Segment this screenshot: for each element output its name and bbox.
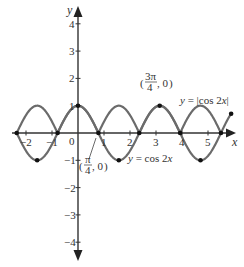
y-tick-label: −1 — [64, 154, 76, 166]
x-tick-label: −1 — [46, 136, 58, 148]
x-tick-label: 3 — [153, 136, 159, 148]
marked-point — [178, 131, 183, 136]
abs-cos-2x-curve — [17, 106, 231, 133]
y-axis-arrow-down-icon — [74, 250, 83, 261]
y-tick-label: −2 — [64, 182, 76, 194]
marked-point — [219, 131, 224, 136]
svg-text:(: ( — [140, 77, 144, 90]
point-label-3pi-over-4: ( 3π 4 , 0 ) — [140, 70, 173, 93]
y-tick-label: 4 — [69, 18, 75, 30]
marked-point — [157, 103, 162, 108]
y-axis-label: y — [66, 3, 73, 17]
marked-point — [35, 158, 40, 163]
svg-text:4: 4 — [85, 164, 91, 176]
y-tick-label: −3 — [64, 209, 76, 221]
abs-curve-label: y = |cos 2x| — [179, 94, 229, 106]
marked-point — [96, 131, 101, 136]
y-axis-arrow-up-icon — [74, 6, 83, 17]
y-tick-label: −4 — [64, 236, 76, 248]
axes — [12, 6, 236, 261]
marked-point — [117, 158, 122, 163]
function-graph: −2−1123454321−1−2−3−4 y x 0 y = |cos 2x|… — [0, 0, 244, 267]
svg-text:): ) — [104, 160, 108, 173]
svg-text:(: ( — [79, 160, 83, 173]
x-tick-label: 4 — [179, 136, 185, 148]
y-tick-label: 1 — [69, 100, 75, 112]
y-tick-label: 2 — [69, 72, 75, 84]
svg-text:, 0: , 0 — [92, 160, 104, 172]
marked-point — [137, 131, 142, 136]
marked-point — [76, 103, 81, 108]
y-tick-label: 3 — [69, 45, 75, 57]
marked-point — [55, 131, 60, 136]
cos-curve-label: y = cos 2x — [127, 152, 173, 164]
marked-point — [198, 158, 203, 163]
svg-text:, 0: , 0 — [157, 77, 169, 89]
x-tick-label: 1 — [101, 136, 107, 148]
x-tick-label: −2 — [20, 136, 32, 148]
x-tick-label: 2 — [127, 136, 133, 148]
x-axis-label: x — [231, 135, 238, 149]
svg-text:4: 4 — [147, 81, 153, 93]
svg-text:): ) — [169, 77, 173, 90]
origin-label: 0 — [69, 135, 75, 147]
marked-point — [229, 111, 234, 116]
marked-point — [14, 131, 19, 136]
x-tick-label: 5 — [205, 136, 211, 148]
